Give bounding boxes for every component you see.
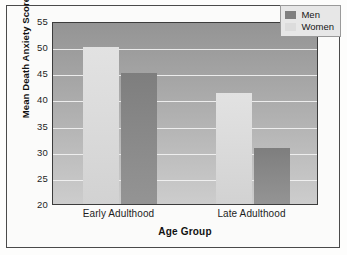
x-axis-title: Age Group bbox=[52, 226, 318, 237]
legend-swatch-men-icon bbox=[285, 11, 296, 19]
legend-item-women: Women bbox=[285, 21, 334, 33]
y-axis-title: Mean Death Anxiety Score bbox=[20, 0, 31, 133]
x-tick-label-early-adulthood: Early Adulthood bbox=[59, 208, 179, 219]
y-tick-label-25: 25 bbox=[4, 174, 48, 184]
x-tick-label-late-adulthood: Late Adulthood bbox=[192, 208, 312, 219]
legend-label-men: Men bbox=[301, 10, 319, 20]
bar-early-adulthood-men bbox=[121, 73, 157, 204]
bar-late-adulthood-women bbox=[216, 93, 252, 204]
legend-item-men: Men bbox=[285, 9, 334, 21]
chart-legend: MenWomen bbox=[280, 5, 341, 37]
chart-figure: 2025303540455055 Mean Death Anxiety Scor… bbox=[0, 0, 347, 255]
y-tick-label-30: 30 bbox=[4, 148, 48, 158]
legend-swatch-women-icon bbox=[285, 23, 296, 31]
legend-label-women: Women bbox=[301, 22, 334, 32]
y-tick-label-20: 20 bbox=[4, 200, 48, 210]
plot-area bbox=[52, 22, 318, 205]
bar-late-adulthood-men bbox=[254, 148, 290, 205]
bar-early-adulthood-women bbox=[83, 47, 119, 204]
